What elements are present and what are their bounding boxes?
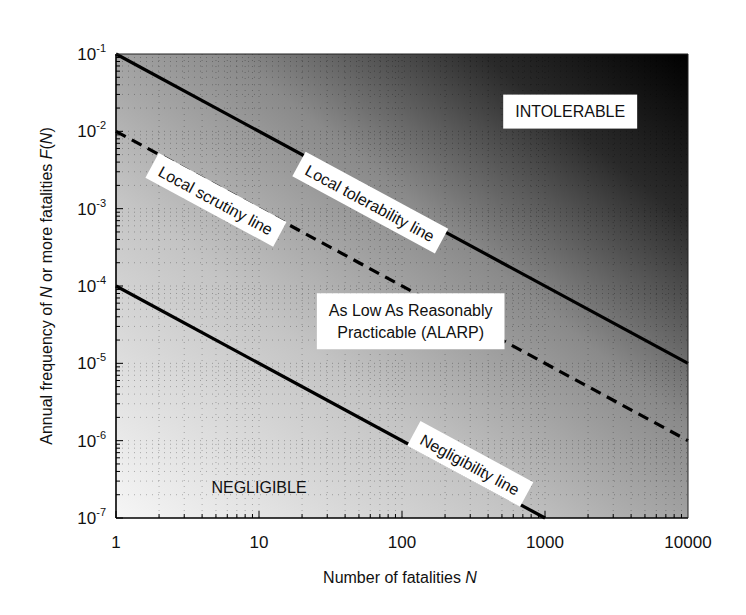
alarp-region-label: As Low As ReasonablyPracticable (ALARP) — [317, 293, 505, 349]
x-tick-label: 10000 — [664, 533, 711, 552]
x-tick-label: 100 — [388, 533, 416, 552]
y-tick-label: 10-3 — [77, 197, 106, 219]
y-tick-label: 10-6 — [77, 429, 106, 451]
x-tick-label: 1 — [111, 533, 120, 552]
region-label-text: Practicable (ALARP) — [337, 324, 484, 341]
x-axis-title: Number of fatalities N — [323, 569, 477, 586]
x-tick-label: 1000 — [526, 533, 564, 552]
y-tick-label: 10-2 — [77, 119, 106, 141]
region-label-text: INTOLERABLE — [515, 103, 625, 120]
negligible-region-label: NEGLIGIBLE — [211, 479, 306, 496]
region-label-text: As Low As Reasonably — [329, 302, 493, 319]
y-tick-label: 10-5 — [77, 351, 106, 373]
x-tick-label: 10 — [250, 533, 269, 552]
y-axis-title: Annual frequency of N or more fatalities… — [38, 127, 55, 444]
y-tick-label: 10-4 — [77, 274, 106, 296]
intolerable-region-label: INTOLERABLE — [503, 95, 637, 129]
region-label-text: NEGLIGIBLE — [211, 479, 306, 496]
y-tick-label: 10-1 — [77, 42, 106, 64]
fn-curve-chart: Local tolerability lineLocal scrutiny li… — [0, 0, 746, 615]
y-tick-label: 10-7 — [77, 506, 106, 528]
